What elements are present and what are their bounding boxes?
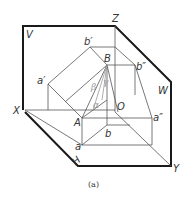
angle-label-beta: β: [90, 82, 96, 92]
axis-label-y: Y: [173, 163, 180, 174]
origin-label-o: O: [117, 101, 125, 112]
point-label-b: b: [105, 128, 111, 139]
point-label-a: a: [75, 141, 81, 152]
point-label-b-double-prime: b″: [136, 61, 146, 72]
plane-label-v: V: [26, 29, 34, 40]
angle-label-gamma: γ: [103, 77, 109, 87]
projection-diagram: Z V W H X Y O B A b′ a′ b″ a″ a b β γ α …: [0, 0, 192, 204]
axis-label-x: X: [12, 105, 21, 116]
figure-caption: (a): [88, 180, 99, 189]
point-label-a-prime: a′: [37, 75, 46, 86]
plane-label-w: W: [158, 85, 169, 96]
point-label-A: A: [73, 117, 81, 128]
axis-label-z: Z: [111, 13, 120, 24]
point-label-b-prime: b′: [84, 36, 93, 47]
angle-label-alpha: α: [93, 100, 99, 110]
point-label-B: B: [104, 53, 111, 64]
point-label-a-double-prime: a″: [153, 112, 163, 123]
